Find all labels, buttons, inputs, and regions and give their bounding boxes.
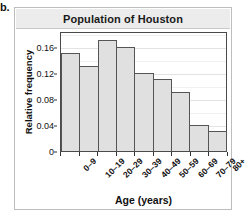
- x-axis-tick-mark: [227, 152, 228, 156]
- plot-area: [60, 32, 227, 152]
- x-axis-tick-labels: 0–910–1920–2930–3940–4950–5960–6970–7980…: [60, 154, 227, 196]
- x-axis-tick-label: 10–19: [103, 156, 127, 180]
- bar-series: [61, 33, 226, 151]
- y-axis-tick-labels: 00.040.080.120.16: [33, 32, 57, 152]
- y-axis-tick-label: 0.08: [36, 95, 54, 105]
- bar: [79, 66, 98, 151]
- x-axis-tick-label: 40–49: [158, 156, 182, 180]
- bar: [171, 92, 190, 151]
- x-axis-label: Age (years): [60, 194, 227, 206]
- bar: [134, 73, 153, 151]
- bar: [116, 47, 135, 151]
- y-axis-tick-mark: [54, 99, 57, 100]
- x-axis-tick-label: 20–29: [121, 156, 145, 180]
- y-axis-label: Relative frequency: [23, 50, 34, 134]
- bar: [153, 79, 172, 151]
- figure-part-label: b.: [0, 1, 9, 13]
- y-axis-tick-mark: [54, 125, 57, 126]
- y-axis-tick-mark: [54, 152, 57, 153]
- chart-title: Population of Houston: [63, 13, 183, 25]
- x-axis-tick-label: 30–39: [140, 156, 164, 180]
- bar: [61, 53, 80, 151]
- y-axis-tick-mark: [54, 73, 57, 74]
- x-axis-tick-label: 0–9: [81, 156, 98, 173]
- x-axis-tick-label: 60–69: [196, 156, 220, 180]
- chart-panel: Population of Houston Relative frequency…: [14, 7, 232, 210]
- y-axis-tick-label: 0.16: [36, 43, 54, 53]
- bar: [98, 40, 117, 151]
- y-axis-tick-label: 0.12: [36, 69, 54, 79]
- chart-title-bar: Population of Houston: [16, 9, 230, 29]
- y-axis-tick-mark: [54, 47, 57, 48]
- bar: [189, 125, 208, 151]
- y-axis-tick-label: 0.04: [36, 121, 54, 131]
- bar: [208, 131, 227, 151]
